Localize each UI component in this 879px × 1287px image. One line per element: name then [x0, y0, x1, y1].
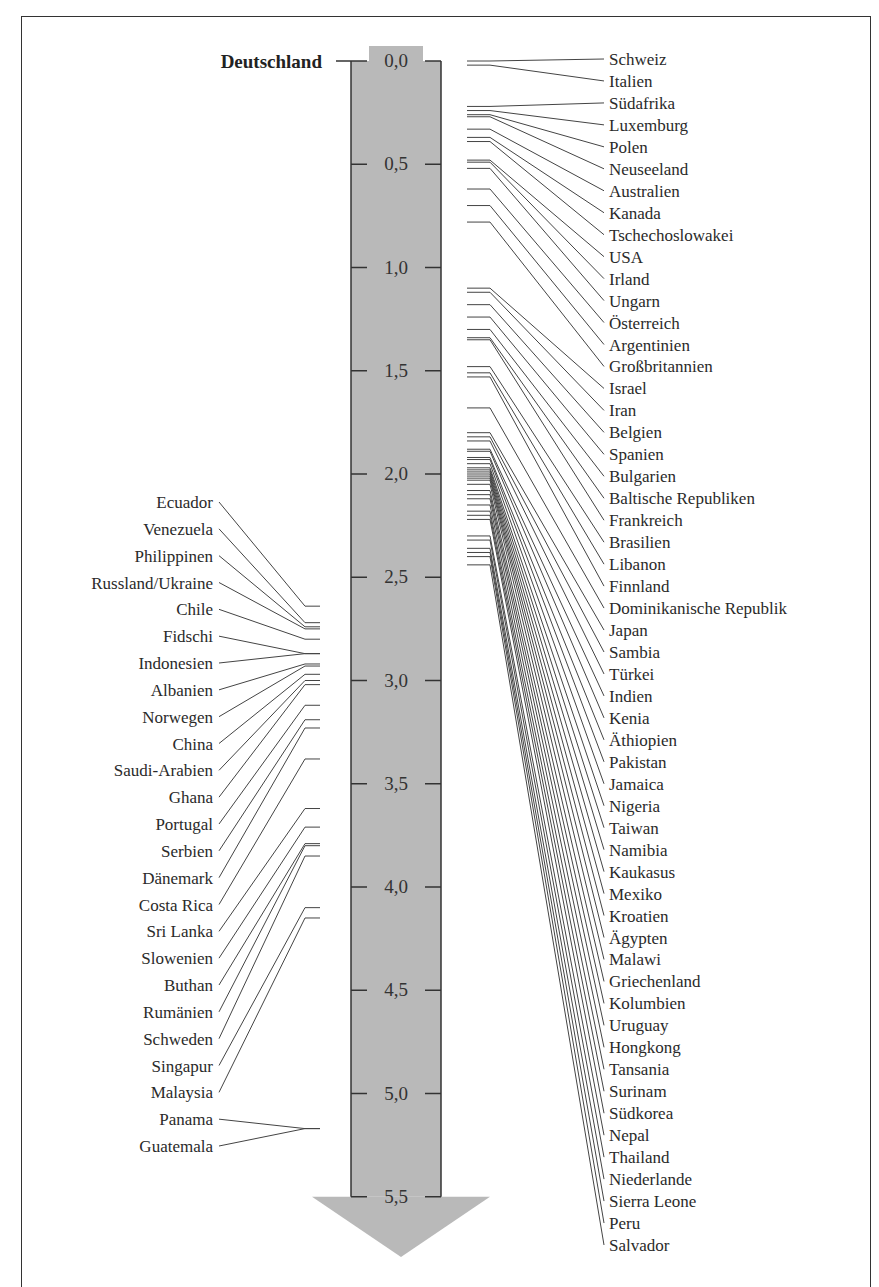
country-label: USA: [609, 248, 644, 267]
country-label: Fidschi: [163, 627, 213, 646]
axis-tick-label: 2,0: [384, 463, 408, 484]
country-label: Iran: [609, 401, 637, 420]
country-label: Schweiz: [609, 50, 667, 69]
country-item: Panama: [159, 1110, 320, 1129]
country-label: Finnland: [609, 577, 670, 596]
leader-line: [219, 666, 320, 717]
axis-tick-label: 5,5: [384, 1186, 408, 1207]
country-label: Peru: [609, 1214, 641, 1233]
country-label: Südafrika: [609, 94, 676, 113]
country-item: Südafrika: [467, 94, 676, 113]
country-item: Saudi-Arabien: [114, 681, 320, 781]
country-label: Thailand: [609, 1148, 670, 1167]
leader-line: [219, 529, 320, 623]
country-label: Rumänien: [143, 1003, 213, 1022]
country-label: Äthiopien: [609, 731, 677, 750]
country-label: Malaysia: [151, 1083, 214, 1102]
scale-bar: [312, 46, 490, 1257]
country-label: Albanien: [151, 681, 214, 700]
country-item: Tschechoslowakei: [467, 142, 734, 245]
leader-line: [467, 222, 604, 366]
country-label: Ägypten: [609, 929, 668, 948]
country-label: Luxemburg: [609, 116, 689, 135]
axis-tick-label: 1,0: [384, 257, 408, 278]
leader-line: [467, 305, 604, 433]
leader-line: [219, 918, 320, 1092]
leader-line: [219, 556, 320, 627]
scale-bar-shape: [351, 46, 441, 1197]
leader-line: [467, 168, 604, 300]
country-label: Japan: [609, 621, 648, 640]
leader-line: [219, 1119, 320, 1128]
country-label: Kaukasus: [609, 863, 675, 882]
leader-line: [467, 565, 604, 1245]
country-item: Luxemburg: [467, 111, 689, 135]
country-item: Guatemala: [139, 1129, 320, 1156]
leader-line: [467, 111, 604, 125]
country-label: Philippinen: [135, 547, 214, 566]
country-label: Serbien: [161, 842, 213, 861]
country-label: Frankreich: [609, 511, 683, 530]
country-item: Venezuela: [143, 520, 320, 623]
axis-tick-label: 1,5: [384, 360, 408, 381]
country-label: Nigeria: [609, 797, 660, 816]
country-label: Indonesien: [138, 654, 213, 673]
country-label: Kolumbien: [609, 994, 686, 1013]
country-label: Indien: [609, 687, 653, 706]
country-label: Sri Lanka: [146, 922, 213, 941]
country-label: Schweden: [143, 1030, 213, 1049]
country-label: Tschechoslowakei: [609, 226, 734, 245]
left-country-list: EcuadorVenezuelaPhilippinenRussland/Ukra…: [91, 493, 320, 1156]
leader-line: [219, 664, 320, 690]
country-label: Venezuela: [143, 520, 213, 539]
leader-line: [219, 846, 320, 1012]
country-label: Belgien: [609, 423, 662, 442]
country-label: Libanon: [609, 555, 666, 574]
country-item: Fidschi: [163, 627, 320, 653]
country-label: Niederlande: [609, 1170, 692, 1189]
country-label: Pakistan: [609, 753, 667, 772]
country-label: Costa Rica: [139, 896, 214, 915]
leader-line: [219, 759, 320, 905]
leader-line: [467, 519, 604, 1113]
leader-line: [467, 117, 604, 169]
leader-line: [467, 137, 604, 212]
country-label: Jamaica: [609, 775, 664, 794]
leader-line: [219, 681, 320, 771]
country-label: Neuseeland: [609, 160, 689, 179]
country-label: Singapur: [152, 1057, 214, 1076]
leader-line: [219, 856, 320, 1039]
country-label: Slowenien: [141, 949, 213, 968]
leader-line: [219, 705, 320, 824]
country-label: Guatemala: [139, 1137, 213, 1156]
country-label: Dominikanische Republik: [609, 599, 788, 618]
country-label: Argentinien: [609, 336, 690, 355]
country-label: Sambia: [609, 643, 660, 662]
leader-line: [467, 408, 604, 608]
leader-line: [219, 685, 320, 798]
country-label: Bulgarien: [609, 467, 677, 486]
country-label: Kroatien: [609, 907, 669, 926]
country-label: Nepal: [609, 1126, 650, 1145]
country-label: Ghana: [169, 788, 214, 807]
country-label: Ungarn: [609, 292, 660, 311]
country-label: Salvador: [609, 1236, 670, 1255]
leader-line: [219, 720, 320, 851]
country-label: Baltische Republiken: [609, 489, 755, 508]
country-label: Brasilien: [609, 533, 671, 552]
country-label: Dänemark: [142, 869, 213, 888]
country-label: Hongkong: [609, 1038, 681, 1057]
leader-line: [467, 65, 604, 81]
country-label: Russland/Ukraine: [91, 574, 213, 593]
country-label: Namibia: [609, 841, 668, 860]
axis-tick-label: 5,0: [384, 1083, 408, 1104]
country-label: Südkorea: [609, 1104, 674, 1123]
country-label: Spanien: [609, 445, 664, 464]
axis-tick-label: 0,5: [384, 153, 408, 174]
country-label: Polen: [609, 138, 648, 157]
leader-line: [467, 288, 604, 388]
country-label: Griechenland: [609, 972, 701, 991]
leader-line: [219, 1129, 320, 1146]
country-label: Tansania: [609, 1060, 670, 1079]
